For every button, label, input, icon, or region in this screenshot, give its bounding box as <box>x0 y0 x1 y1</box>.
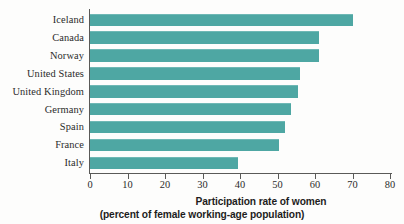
bar-france <box>90 139 279 151</box>
x-tick-mark <box>315 174 316 179</box>
x-tick-mark <box>353 174 354 179</box>
bar-norway <box>90 49 319 61</box>
x-tick-label-80: 80 <box>385 179 395 190</box>
bar-rows <box>90 11 390 172</box>
category-label-canada: Canada <box>0 29 84 47</box>
x-tick-mark <box>240 174 241 179</box>
x-tick-mark <box>165 174 166 179</box>
bar-row <box>90 11 390 29</box>
x-axis-ticks: 01020304050607080 <box>90 174 390 192</box>
bar-row <box>90 101 390 119</box>
bar-united-states <box>90 67 300 79</box>
x-tick-label-0: 0 <box>87 179 92 190</box>
bar-row <box>90 118 390 136</box>
bar-row <box>90 136 390 154</box>
x-tick-label-50: 50 <box>272 179 282 190</box>
bar-spain <box>90 121 285 133</box>
category-label-norway: Norway <box>0 47 84 65</box>
bar-canada <box>90 31 319 43</box>
bar-row <box>90 83 390 101</box>
x-tick-mark <box>203 174 204 179</box>
x-tick-label-40: 40 <box>235 179 245 190</box>
x-tick-mark <box>390 174 391 179</box>
x-tick-label-20: 20 <box>160 179 170 190</box>
bar-germany <box>90 103 291 115</box>
bar-iceland <box>90 14 353 26</box>
axis-caption-line-1: Participation rate of women <box>0 196 404 207</box>
participation-rate-bar-chart: IcelandCanadaNorwayUnited StatesUnited K… <box>0 0 404 224</box>
bar-united-kingdom <box>90 85 298 97</box>
x-tick-label-10: 10 <box>122 179 132 190</box>
category-axis-labels: IcelandCanadaNorwayUnited StatesUnited K… <box>0 11 84 172</box>
x-tick-label-70: 70 <box>347 179 357 190</box>
category-label-spain: Spain <box>0 118 84 136</box>
x-tick-mark <box>128 174 129 179</box>
bar-italy <box>90 157 238 169</box>
x-tick-mark <box>278 174 279 179</box>
plot-area <box>90 11 390 172</box>
category-label-iceland: Iceland <box>0 11 84 29</box>
x-tick-label-60: 60 <box>310 179 320 190</box>
category-label-germany: Germany <box>0 101 84 119</box>
bar-row <box>90 29 390 47</box>
x-tick-label-30: 30 <box>197 179 207 190</box>
category-label-united-kingdom: United Kingdom <box>0 83 84 101</box>
bar-row <box>90 154 390 172</box>
bar-row <box>90 47 390 65</box>
category-label-france: France <box>0 136 84 154</box>
category-label-italy: Italy <box>0 154 84 172</box>
x-tick-mark <box>90 174 91 179</box>
category-label-united-states: United States <box>0 65 84 83</box>
bar-row <box>90 65 390 83</box>
axis-caption-line-2: (percent of female working-age populatio… <box>0 209 404 220</box>
